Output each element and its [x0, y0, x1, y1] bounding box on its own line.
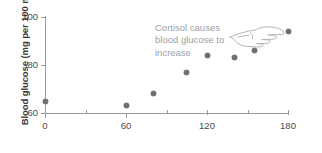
data-point — [124, 103, 129, 108]
x-tick-mark-120 — [207, 110, 208, 115]
data-point — [232, 55, 237, 60]
y-tick-label-100: 100 — [14, 11, 38, 22]
y-tick-label-80: 80 — [14, 59, 38, 70]
data-point — [43, 99, 48, 104]
y-tick-mark-80 — [41, 65, 45, 66]
x-tick-label-0: 0 — [33, 120, 57, 131]
x-tick-mark-180 — [288, 110, 289, 115]
annotation-text: Cortisol causes blood glucose to increas… — [155, 22, 224, 59]
x-tick-mark-0 — [45, 113, 46, 118]
pointing-hand-icon — [228, 23, 288, 53]
scatter-chart: Blood glucose (mg per 100 ml) 100 80 60 … — [0, 0, 322, 153]
data-point — [151, 91, 156, 96]
y-tick-mark-100 — [41, 17, 45, 18]
x-tick-label-120: 120 — [195, 120, 219, 131]
x-tick-label-180: 180 — [276, 120, 300, 131]
x-tick-mark-30 — [86, 110, 87, 114]
data-point — [184, 70, 189, 75]
x-tick-mark-90 — [167, 110, 168, 114]
x-tick-mark-150 — [248, 110, 249, 114]
y-tick-label-60: 60 — [14, 107, 38, 118]
x-tick-mark-60 — [126, 113, 127, 118]
x-tick-label-60: 60 — [114, 120, 138, 131]
